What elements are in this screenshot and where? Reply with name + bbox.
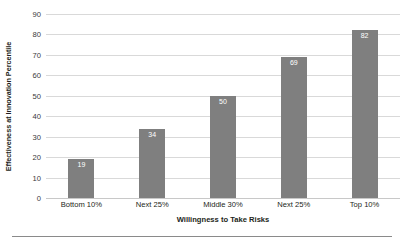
plot-area: 19 34 50 69 — [46, 14, 400, 198]
bar-value-label: 50 — [210, 98, 236, 106]
y-axis-tick-labels: 90 80 70 60 50 40 30 20 10 0 — [24, 14, 44, 198]
y-tick-30: 30 — [33, 132, 41, 141]
y-tick-80: 80 — [33, 30, 41, 39]
bar-chart-figure: Effectiveness at Innovation Percentile 9… — [0, 0, 404, 247]
bar-next-25-upper[interactable]: 69 — [281, 57, 307, 198]
x-axis-title: Willingness to Take Risks — [46, 215, 400, 224]
bar-value-label: 82 — [352, 32, 378, 40]
y-tick-70: 70 — [33, 50, 41, 59]
bar-slot: 19 — [46, 14, 117, 198]
y-tick-40: 40 — [33, 112, 41, 121]
bar-value-label: 34 — [139, 131, 165, 139]
bar-next-25-lower[interactable]: 34 — [139, 129, 165, 199]
x-tick-top-10: Top 10% — [329, 200, 400, 209]
x-tick-bottom-10: Bottom 10% — [46, 200, 117, 209]
bar-middle-30[interactable]: 50 — [210, 96, 236, 198]
bar-slot: 82 — [329, 14, 400, 198]
bar-series: 19 34 50 69 — [46, 14, 400, 198]
y-axis-title: Effectiveness at Innovation Percentile — [0, 0, 18, 212]
bottom-divider — [12, 236, 392, 237]
y-axis-title-text: Effectiveness at Innovation Percentile — [5, 41, 14, 171]
bar-value-label: 69 — [281, 59, 307, 67]
y-tick-20: 20 — [33, 153, 41, 162]
bar-slot: 69 — [258, 14, 329, 198]
bar-slot: 34 — [117, 14, 188, 198]
bar-top-10[interactable]: 82 — [352, 30, 378, 198]
bar-value-label: 19 — [68, 161, 94, 169]
x-tick-next-25-upper: Next 25% — [258, 200, 329, 209]
x-tick-next-25-lower: Next 25% — [117, 200, 188, 209]
y-tick-10: 10 — [33, 173, 41, 182]
bar-slot: 50 — [188, 14, 259, 198]
x-axis-tick-labels: Bottom 10% Next 25% Middle 30% Next 25% … — [46, 200, 400, 209]
y-tick-0: 0 — [37, 194, 41, 203]
bar-bottom-10[interactable]: 19 — [68, 159, 94, 198]
x-tick-middle-30: Middle 30% — [188, 200, 259, 209]
gridline-baseline — [46, 198, 400, 199]
y-tick-90: 90 — [33, 10, 41, 19]
y-tick-60: 60 — [33, 71, 41, 80]
y-tick-50: 50 — [33, 91, 41, 100]
plot-wrapper: 90 80 70 60 50 40 30 20 10 0 — [24, 14, 400, 198]
